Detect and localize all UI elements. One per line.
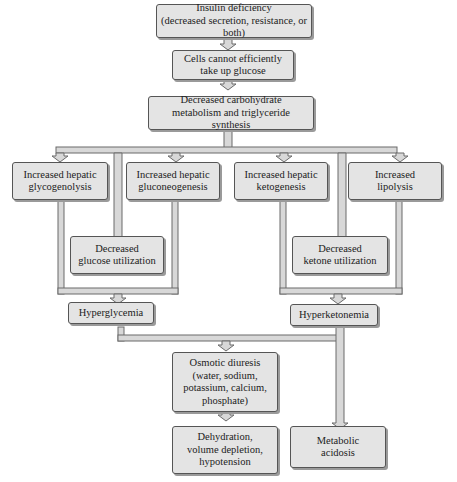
node-dehydration: Dehydration,volume depletion,hypotension — [172, 426, 278, 474]
arrow-to-hyperketonemia — [330, 294, 346, 304]
node-osmotic-diuresis: Osmotic diuresis(water, sodium,potassium… — [172, 352, 278, 412]
node-decreased-carb-metabolism: Decreased carbohydratemetabolism and tri… — [148, 96, 314, 130]
arrow-to-glucose-util — [110, 153, 126, 243]
node-hyperketonemia: Hyperketonemia — [290, 304, 378, 326]
arrow-to-ketogenesis — [276, 153, 292, 162]
node-glycogenolysis: Increased hepaticglycogenolysis — [12, 162, 108, 200]
arrow-to-gluconeogenesis — [168, 153, 184, 162]
node-ketogenesis: Increased hepaticketogenesis — [234, 162, 328, 200]
arrow-insulin-to-cells — [220, 38, 236, 50]
arrow-to-osmotic — [218, 341, 234, 351]
node-cells-glucose-uptake: Cells cannot efficientlytake up glucose — [172, 50, 294, 80]
arrow-to-lipolysis — [392, 153, 408, 162]
node-hyperglycemia: Hyperglycemia — [68, 302, 154, 324]
node-decreased-ketone-utilization: Decreasedketone utilization — [292, 236, 388, 274]
node-insulin-deficiency: Insulin deficiency(decreased secretion, … — [156, 4, 312, 38]
node-metabolic-acidosis: Metabolicacidosis — [290, 426, 386, 468]
arrow-to-glycogenolysis — [52, 153, 68, 162]
arrow-to-acidosis — [332, 327, 348, 429]
node-gluconeogenesis: Increased hepaticgluconeogenesis — [126, 162, 220, 200]
node-lipolysis: Increasedlipolysis — [348, 162, 442, 200]
node-decreased-glucose-utilization: Decreasedglucose utilization — [70, 236, 164, 274]
arrow-to-dehydration — [218, 411, 234, 421]
